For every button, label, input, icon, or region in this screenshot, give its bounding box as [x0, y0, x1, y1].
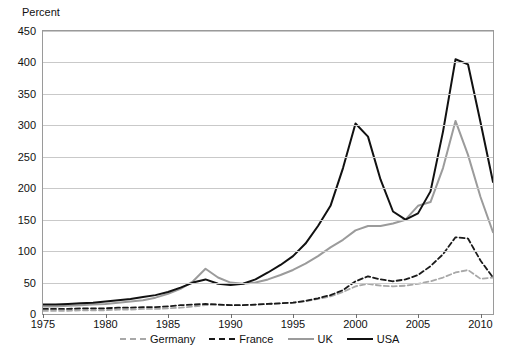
legend-label-usa: USA: [377, 333, 400, 345]
y-tick-label: 450: [6, 25, 36, 37]
series-line-uk: [43, 121, 493, 307]
plot-area: [42, 30, 494, 315]
legend-swatch-france: [209, 338, 235, 340]
legend-label-germany: Germany: [150, 333, 195, 345]
x-tick-mark: [168, 314, 169, 318]
y-tick-label: 400: [6, 56, 36, 68]
gridline: [43, 125, 493, 126]
chart-lines: [43, 31, 493, 314]
x-tick-mark: [43, 314, 44, 318]
gridline: [43, 220, 493, 221]
legend-swatch-germany: [120, 338, 146, 340]
x-tick-label: 1990: [211, 318, 251, 330]
y-tick-label: 50: [6, 277, 36, 289]
gridline: [43, 31, 493, 32]
x-tick-label: 2005: [398, 318, 438, 330]
x-tick-mark: [356, 314, 357, 318]
x-tick-label: 1985: [148, 318, 188, 330]
y-tick-label: 150: [6, 214, 36, 226]
x-tick-mark: [481, 314, 482, 318]
y-tick-label: 200: [6, 182, 36, 194]
x-tick-label: 2000: [336, 318, 376, 330]
gridline: [43, 251, 493, 252]
y-axis-title: Percent: [22, 6, 60, 18]
legend-label-uk: UK: [318, 333, 333, 345]
gridline: [43, 94, 493, 95]
series-line-usa: [43, 59, 493, 304]
x-tick-label: 1980: [86, 318, 126, 330]
gridline: [43, 283, 493, 284]
y-tick-label: 300: [6, 119, 36, 131]
legend-swatch-uk: [288, 338, 314, 340]
x-tick-mark: [293, 314, 294, 318]
legend-entry-usa: USA: [347, 333, 400, 345]
gridline: [43, 62, 493, 63]
y-tick-label: 350: [6, 88, 36, 100]
gridline: [43, 188, 493, 189]
gridline: [43, 157, 493, 158]
x-tick-mark: [418, 314, 419, 318]
legend-entry-germany: Germany: [120, 333, 195, 345]
y-tick-label: 100: [6, 245, 36, 257]
x-tick-label: 2010: [461, 318, 501, 330]
legend-swatch-usa: [347, 338, 373, 340]
x-tick-label: 1995: [273, 318, 313, 330]
legend-entry-france: France: [209, 333, 273, 345]
y-tick-label: 250: [6, 151, 36, 163]
x-tick-mark: [231, 314, 232, 318]
chart-container: Percent 050100150200250300350400450 1975…: [0, 0, 509, 354]
x-tick-mark: [106, 314, 107, 318]
x-tick-label: 1975: [23, 318, 63, 330]
legend-label-france: France: [239, 333, 273, 345]
legend-entry-uk: UK: [288, 333, 333, 345]
chart-legend: GermanyFranceUKUSA: [120, 333, 399, 345]
